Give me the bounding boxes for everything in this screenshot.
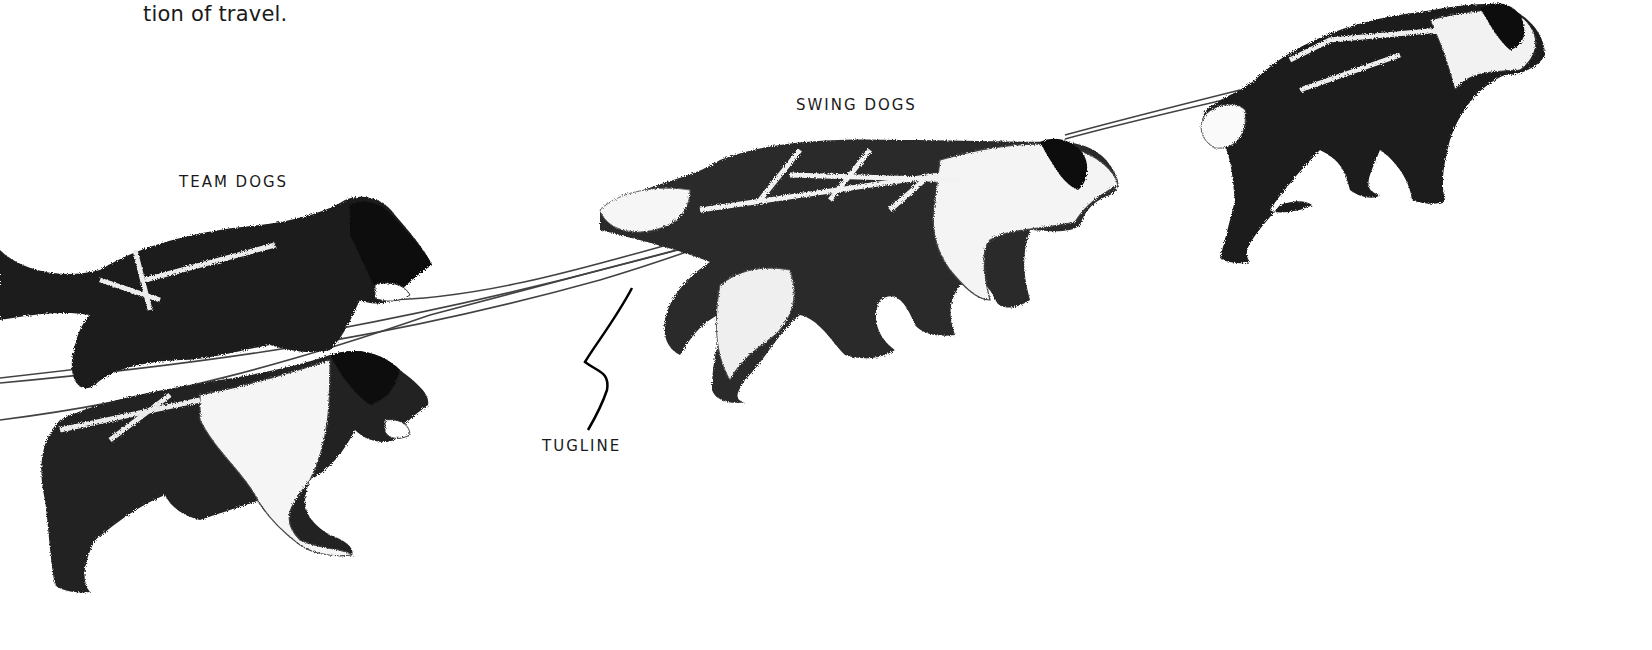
tugline-pointer (585, 288, 632, 430)
label-team-dogs: TEAM DOGS (179, 173, 288, 191)
swing-dogs (600, 139, 1118, 403)
label-swing-dogs: SWING DOGS (796, 96, 917, 114)
label-tugline: TUGLINE (542, 437, 621, 455)
team-dog-lower (41, 351, 428, 593)
lead-dog (1201, 3, 1545, 263)
